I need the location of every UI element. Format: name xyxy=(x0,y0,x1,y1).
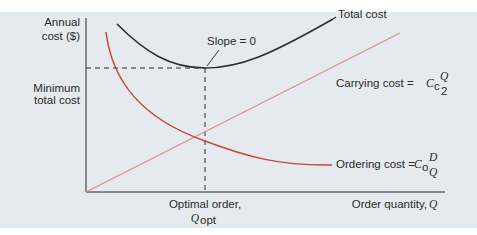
y-axis-label-line1: Annual xyxy=(44,16,80,28)
total-leader xyxy=(333,17,336,19)
ordering-num: D xyxy=(428,151,438,163)
slope-label: Slope = 0 xyxy=(207,35,256,47)
ordering-cost-label: Ordering cost = C o D Q xyxy=(336,151,438,178)
slope-pointer xyxy=(207,50,219,66)
carrying-coef: C xyxy=(426,77,434,89)
x-axis-label-var: Q xyxy=(429,198,438,210)
min-cost-label-line2: total cost xyxy=(34,94,81,106)
ordering-sub: o xyxy=(422,161,428,173)
eoq-chart: Annual cost ($) Minimum total cost Slope… xyxy=(0,0,477,235)
ordering-label-text: Ordering cost = xyxy=(336,158,415,170)
min-cost-label-line1: Minimum xyxy=(33,82,80,94)
ordering-cost-curve xyxy=(106,32,325,165)
optimal-order-label: Optimal order, xyxy=(169,198,241,210)
x-axis-label: Order quantity, Q xyxy=(352,198,438,210)
y-axis-label-line2: cost ($) xyxy=(42,30,81,42)
ordering-coef: C xyxy=(414,158,422,170)
total-cost-label: Total cost xyxy=(338,8,387,20)
carrying-label-text: Carrying cost = xyxy=(336,77,414,89)
q-opt-sub: opt xyxy=(200,214,217,226)
carrying-num: Q xyxy=(440,70,449,82)
x-axis-label-text: Order quantity, xyxy=(352,198,427,210)
q-opt-base: Q xyxy=(191,212,200,224)
ordering-den: Q xyxy=(429,166,438,178)
carrying-den: 2 xyxy=(441,85,447,97)
carrying-cost-label: Carrying cost = C c Q 2 xyxy=(336,70,449,97)
